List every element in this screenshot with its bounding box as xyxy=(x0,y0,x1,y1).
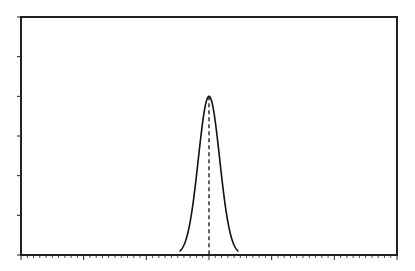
chart xyxy=(0,0,415,271)
x-axis-ticks xyxy=(21,255,397,260)
